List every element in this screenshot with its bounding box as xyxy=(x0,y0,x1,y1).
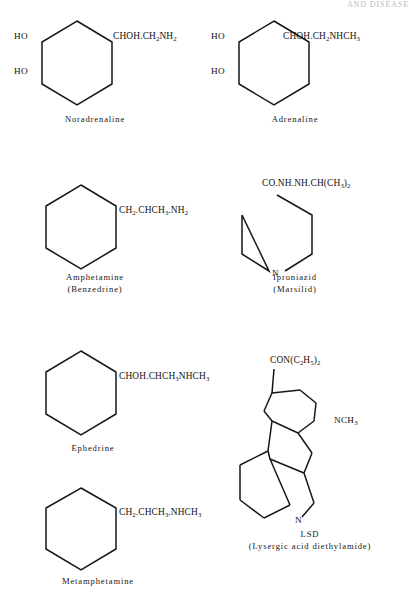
noradrenaline-ring xyxy=(38,18,116,108)
caption-amphetamine-line1: Amphetamine xyxy=(66,272,124,282)
caption-noradrenaline: Noradrenaline xyxy=(0,114,190,126)
ephedrine-ring xyxy=(42,348,120,438)
caption-adrenaline: Adrenaline xyxy=(200,114,390,126)
caption-metamphetamine: Metamphetamine xyxy=(0,576,196,588)
adrenaline-ho-lower: HO xyxy=(211,66,225,76)
caption-lsd: LSD (Lysergic acid diethylamide) xyxy=(212,529,408,552)
metamphetamine-ring xyxy=(42,485,120,573)
running-head: AND DISEASE xyxy=(200,0,409,9)
lsd-ring-system xyxy=(228,355,368,527)
noradrenaline-ho-lower: HO xyxy=(14,66,28,76)
lsd-nch3-label: NCH3 xyxy=(334,415,358,426)
caption-ephedrine: Ephedrine xyxy=(0,443,186,455)
amphetamine-ring xyxy=(42,182,120,272)
structure-iproniazid xyxy=(238,192,316,278)
structure-metamphetamine xyxy=(42,485,120,573)
caption-amphetamine: Amphetamine (Benzedrine) xyxy=(0,272,190,295)
structure-lsd xyxy=(228,355,368,527)
ephedrine-side-chain: CHOH.CHCH3NHCH3 xyxy=(119,371,209,382)
caption-adrenaline-line1: Adrenaline xyxy=(272,114,319,124)
metamphetamine-side-chain: CH2.CHCH3.NHCH3 xyxy=(119,507,201,518)
iproniazid-ring xyxy=(238,192,316,278)
adrenaline-side-chain: CHOH.CH2NHCH3 xyxy=(283,31,360,42)
caption-lsd-line2: (Lysergic acid diethylamide) xyxy=(212,541,408,553)
caption-iproniazid: Iproniazid (Marsilid) xyxy=(200,272,390,295)
caption-amphetamine-line2: (Benzedrine) xyxy=(0,284,190,296)
caption-iproniazid-line1: Iproniazid xyxy=(273,272,317,282)
structure-noradrenaline xyxy=(38,18,116,108)
noradrenaline-side-chain: CHOH.CH2NH2 xyxy=(113,31,177,42)
amphetamine-side-chain: CH2.CHCH3.NH2 xyxy=(119,205,188,216)
noradrenaline-ho-upper: HO xyxy=(14,31,28,41)
caption-metamphetamine-line1: Metamphetamine xyxy=(62,576,134,586)
lsd-carboxamide: CON(C2H5)2 xyxy=(270,355,320,366)
structure-amphetamine xyxy=(42,182,120,272)
caption-ephedrine-line1: Ephedrine xyxy=(72,443,115,453)
caption-noradrenaline-line1: Noradrenaline xyxy=(65,114,125,124)
caption-lsd-line1: LSD xyxy=(301,529,320,539)
chemistry-figure-page: AND DISEASE HO HO CHOH.CH2NH2 Noradrenal… xyxy=(0,0,409,592)
structure-ephedrine xyxy=(42,348,120,438)
lsd-indole-nitrogen: N xyxy=(295,515,302,525)
adrenaline-ho-upper: HO xyxy=(211,31,225,41)
caption-iproniazid-line2: (Marsilid) xyxy=(200,284,390,296)
iproniazid-side-chain: CO.NH.NH.CH(CH3)2 xyxy=(262,178,351,189)
